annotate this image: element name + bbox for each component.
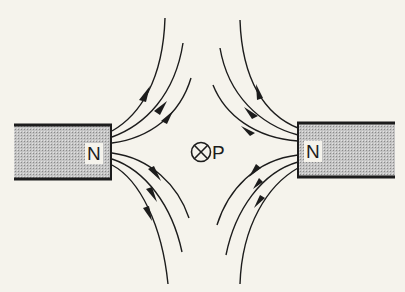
field-lines-canvas [0, 0, 405, 292]
right-pole-label: N [304, 141, 322, 162]
arrow-down-left-icon [249, 164, 261, 177]
left-pole-label: N [85, 143, 103, 164]
point-label: P [212, 143, 225, 162]
field-line-lr-3 [240, 168, 298, 284]
arrow-up-left-icon [256, 84, 263, 100]
into-page-icon [192, 143, 211, 162]
arrow-down-right-icon [146, 187, 157, 202]
arrow-up-left-icon [241, 126, 255, 136]
field-lines [112, 18, 298, 284]
arrow-up-right-icon [154, 101, 167, 115]
field-line-ll-3 [112, 165, 168, 284]
arrow-up-right-icon [139, 86, 150, 102]
field-line-ul-1 [112, 18, 165, 131]
magnetic-field-diagram: N N P [0, 0, 405, 292]
